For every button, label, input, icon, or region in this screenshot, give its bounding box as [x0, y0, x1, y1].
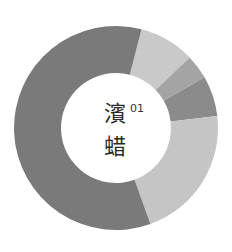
donut-chart	[0, 0, 232, 252]
donut-segment	[14, 26, 150, 230]
donut-segment	[135, 116, 218, 224]
